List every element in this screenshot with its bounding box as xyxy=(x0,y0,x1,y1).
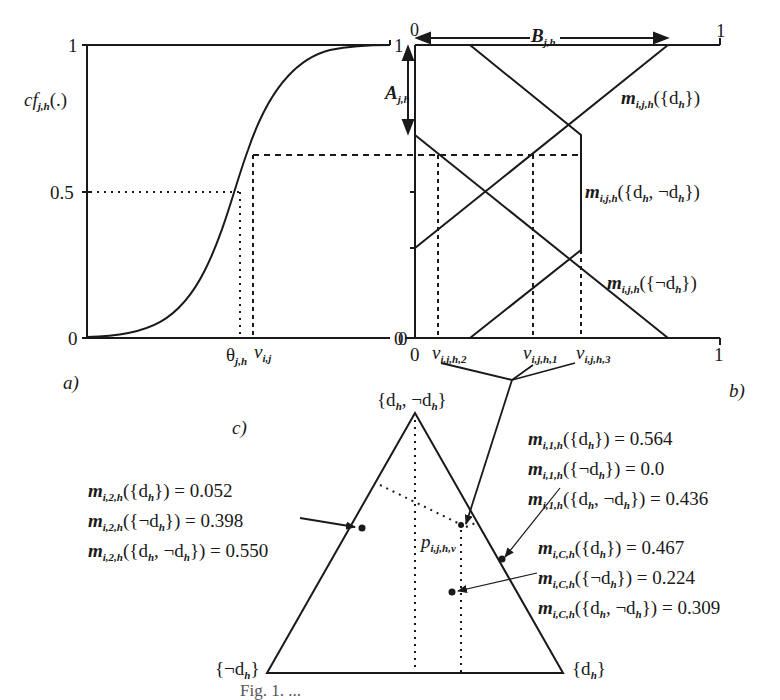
v-sub: i,j,h,1 xyxy=(531,353,557,365)
ylabel-cf: cf xyxy=(24,89,38,110)
ylabel-sub: j,h xyxy=(38,100,50,112)
point-label-pijhv: pi,j,h,v xyxy=(421,532,456,554)
panel-b-toptick-1: 1 xyxy=(716,21,726,40)
m-symbol: m xyxy=(621,87,636,108)
b-sub: j,h xyxy=(544,36,556,48)
point-source-2 xyxy=(359,525,366,532)
panel-a-ylabel: cfj,h(.) xyxy=(24,90,67,112)
mass-row: mi,C,h({¬dh}) = 0.224 xyxy=(538,566,720,596)
mass-block-source-1: mi,1,h({dh}) = 0.564 mi,1,h({¬dh}) = 0.0… xyxy=(528,427,708,517)
point-pijhv xyxy=(458,522,464,528)
mass-row: mi,C,h({dh, ¬dh}) = 0.309 xyxy=(538,596,720,626)
curve-label-m-dnd: mi,j,h({dh, ¬dh}) xyxy=(585,182,700,204)
apex-label: {dh, ¬dh} xyxy=(377,390,447,412)
panel-a-right-tick-1: 1 xyxy=(394,36,404,55)
curve-m-d xyxy=(415,45,668,248)
set-close: }) xyxy=(684,181,699,202)
a-sub: j,h xyxy=(398,93,410,105)
set-open: ({¬d xyxy=(640,272,676,293)
set-close: }) xyxy=(685,87,700,108)
a-symbol: A xyxy=(385,82,398,103)
set-close: }) xyxy=(681,272,696,293)
v-sub: i,j,h,3 xyxy=(584,353,610,365)
set-open: {¬d xyxy=(215,658,244,679)
figure-caption: Fig. 1. ... xyxy=(240,681,301,700)
mass-row: mi,1,h({dh, ¬dh}) = 0.436 xyxy=(528,487,708,517)
set-mid: , ¬d xyxy=(402,389,432,410)
set-open: {d xyxy=(377,389,396,410)
point-combined xyxy=(449,589,456,596)
v-marker-1: vi,j,h,1 xyxy=(523,343,557,365)
panel-b-xtick-0: 0 xyxy=(410,345,420,364)
mass-row: mi,1,h({¬dh}) = 0.0 xyxy=(528,457,708,487)
mass-block-combined: mi,C,h({dh}) = 0.467 mi,C,h({¬dh}) = 0.2… xyxy=(538,536,720,626)
v-marker: vi,j xyxy=(254,342,271,364)
simplex-triangle xyxy=(267,413,563,673)
panel-a-ytick-0: 0 xyxy=(68,329,78,348)
panel-b-label: b) xyxy=(729,381,745,400)
mass-row: mi,2,h({dh}) = 0.052 xyxy=(88,479,268,509)
panel-c-label: c) xyxy=(232,418,247,437)
v-marker-3: vi,j,h,3 xyxy=(576,343,610,365)
panel-b-xtick-1: 1 xyxy=(714,345,724,364)
panel-a-ytick-1: 1 xyxy=(68,36,78,55)
set-close: } xyxy=(438,389,447,410)
panel-b-toptick-0: 0 xyxy=(410,21,419,39)
mass-row: mi,1,h({dh}) = 0.564 xyxy=(528,427,708,457)
curve-label-m-notd: mi,j,h({¬dh}) xyxy=(607,273,697,295)
curve-m-notd xyxy=(415,135,668,338)
set-open: ({d xyxy=(618,181,643,202)
set-open: ({d xyxy=(654,87,679,108)
set-close: } xyxy=(250,658,259,679)
set-close: } xyxy=(597,658,606,679)
arrow-a-label: Aj,h xyxy=(385,83,410,105)
right-vertex-label: {dh} xyxy=(572,659,606,681)
point-source-1 xyxy=(499,556,506,563)
panel-b-ytick-0: 0 xyxy=(398,329,408,348)
mass-row: mi,2,h({dh, ¬dh}) = 0.550 xyxy=(88,539,268,569)
m-symbol: m xyxy=(607,272,622,293)
panel-a-ytick-05: 0.5 xyxy=(50,183,74,202)
v-marker-2: vi,j,h,2 xyxy=(432,343,466,365)
theta-marker: θj,h xyxy=(226,345,247,367)
mass-row: mi,2,h({¬dh}) = 0.398 xyxy=(88,509,268,539)
theta-sub: j,h xyxy=(235,355,247,367)
left-vertex-label: {¬dh} xyxy=(215,659,260,681)
curve-label-m-d: mi,j,h({dh}) xyxy=(621,88,700,110)
set-open: {d xyxy=(572,658,591,679)
m-sub: i,j,h xyxy=(636,98,654,110)
arrow-b-label: Bj,h xyxy=(531,26,556,48)
ylabel-tail: (.) xyxy=(50,89,67,110)
m-sub: i,j,h xyxy=(600,192,618,204)
m-symbol: m xyxy=(585,181,600,202)
v-sub: i,j xyxy=(262,352,271,364)
set-mid: , ¬d xyxy=(649,181,679,202)
panel-a-label: a) xyxy=(63,373,79,392)
p-symbol: p xyxy=(421,531,431,552)
p-sub: i,j,h,v xyxy=(431,542,456,554)
mass-row: mi,C,h({dh}) = 0.467 xyxy=(538,536,720,566)
m-sub: i,j,h xyxy=(622,283,640,295)
theta-symbol: θ xyxy=(226,344,235,365)
mass-block-source-2: mi,2,h({dh}) = 0.052 mi,2,h({¬dh}) = 0.3… xyxy=(88,479,268,569)
v-sub: i,j,h,2 xyxy=(440,353,466,365)
b-symbol: B xyxy=(531,25,544,46)
